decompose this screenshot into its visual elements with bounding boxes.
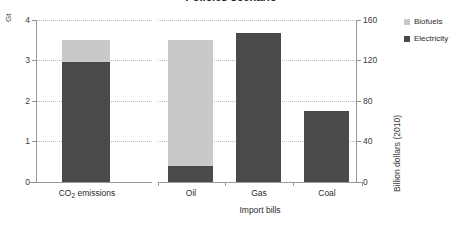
right-axis-label: Billion dollars (2010)	[392, 115, 402, 192]
plot-area: 4 3 2 1 0 160 120 80 40 0 Gt Billion dol…	[0, 0, 462, 227]
bar-coal	[304, 111, 349, 182]
right-tick-40	[357, 141, 361, 142]
baseline-tick-oil-gas	[225, 182, 226, 186]
left-axis-line	[36, 20, 37, 183]
bar-segment-electricity	[62, 62, 110, 182]
baseline-tick-start	[158, 182, 159, 186]
left-tick-4	[32, 20, 36, 21]
legend-swatch-icon	[404, 36, 410, 42]
legend-label-electricity: Electricity	[414, 35, 448, 43]
bar-oil	[168, 40, 213, 182]
gridline-left-4	[36, 20, 152, 21]
left-tick-label-3: 3	[14, 56, 30, 65]
right-tick-label-120: 120	[363, 56, 385, 65]
baseline-tick-end	[362, 182, 363, 186]
bar-segment-biofuels	[168, 40, 213, 166]
chart-legend: Biofuels Electricity	[404, 18, 448, 43]
right-tick-label-40: 40	[363, 137, 385, 146]
category-label-gas: Gas	[233, 188, 285, 198]
right-tick-label-160: 160	[363, 16, 385, 25]
legend-swatch-icon	[404, 19, 410, 25]
baseline-right-panel	[158, 182, 363, 183]
bar-gas	[236, 33, 281, 182]
left-tick-label-4: 4	[14, 16, 30, 25]
chart-figure: Policies scenario 4 3 2 1 0	[0, 0, 462, 227]
left-tick-label-2: 2	[14, 97, 30, 106]
baseline-left-panel	[30, 182, 152, 183]
legend-item-biofuels: Biofuels	[404, 18, 448, 26]
category-label-coal: Coal	[301, 188, 353, 198]
left-tick-1	[32, 141, 36, 142]
left-tick-2	[32, 101, 36, 102]
category-label-oil: Oil	[165, 188, 217, 198]
left-tick-3	[32, 60, 36, 61]
bar-segment-electricity	[168, 166, 213, 182]
category-label-co2-emissions: CO2 emissions	[46, 188, 128, 198]
gridline-right-160	[158, 20, 357, 21]
left-tick-label-1: 1	[14, 137, 30, 146]
bar-co2-emissions	[62, 40, 110, 182]
right-tick-80	[357, 101, 361, 102]
left-axis-label: Gt	[4, 14, 13, 22]
bar-segment-electricity	[304, 111, 349, 182]
right-tick-160	[357, 20, 361, 21]
right-tick-label-80: 80	[363, 97, 385, 106]
left-tick-label-0: 0	[14, 178, 30, 187]
bar-segment-electricity	[236, 33, 281, 182]
right-tick-label-0: 0	[363, 178, 385, 187]
right-tick-120	[357, 60, 361, 61]
right-tick-0	[357, 182, 361, 183]
legend-label-biofuels: Biofuels	[414, 18, 442, 26]
legend-item-electricity: Electricity	[404, 35, 448, 43]
baseline-tick-gas-coal	[293, 182, 294, 186]
bar-segment-biofuels	[62, 40, 110, 62]
group-label-import-bills: Import bills	[200, 205, 320, 215]
left-tick-0	[32, 182, 36, 183]
